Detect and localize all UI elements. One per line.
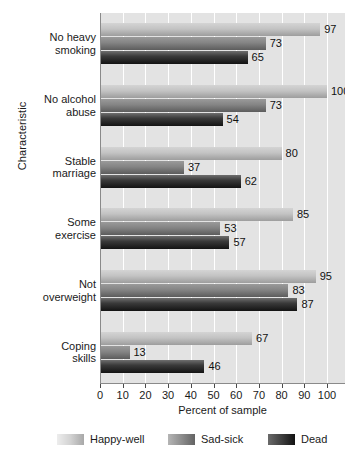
gridline-40 bbox=[191, 13, 192, 383]
x-tick-label-40: 40 bbox=[185, 389, 197, 401]
bar-value-label: 97 bbox=[324, 23, 336, 36]
category-axis: No heavysmokingNo alcoholabuseStablemarr… bbox=[8, 13, 96, 383]
bar bbox=[100, 85, 327, 98]
legend-label: Happy-well bbox=[90, 433, 144, 445]
bar bbox=[100, 270, 316, 283]
x-tick-mark-70 bbox=[259, 384, 260, 388]
gridline-60 bbox=[236, 13, 237, 383]
bar bbox=[100, 23, 320, 36]
x-tick-mark-10 bbox=[123, 384, 124, 388]
legend-label: Dead bbox=[301, 433, 327, 445]
x-tick-label-100: 100 bbox=[318, 389, 336, 401]
x-tick-label-60: 60 bbox=[230, 389, 242, 401]
x-tick-label-10: 10 bbox=[117, 389, 129, 401]
category-label-line: smoking bbox=[8, 44, 96, 57]
x-tick-label-0: 0 bbox=[97, 389, 103, 401]
bar bbox=[100, 147, 282, 160]
x-tick-label-80: 80 bbox=[275, 389, 287, 401]
x-axis-title: Percent of sample bbox=[100, 404, 345, 416]
bar bbox=[100, 161, 184, 174]
bar bbox=[100, 298, 297, 311]
bar bbox=[100, 360, 204, 373]
bar bbox=[100, 284, 288, 297]
x-tick-label-20: 20 bbox=[139, 389, 151, 401]
x-tick-label-90: 90 bbox=[298, 389, 310, 401]
category-label-line: Not bbox=[8, 278, 96, 291]
x-tick-mark-60 bbox=[236, 384, 237, 388]
x-tick-mark-80 bbox=[282, 384, 283, 388]
bar-value-label: 67 bbox=[256, 332, 268, 345]
bar-value-label: 73 bbox=[270, 37, 282, 50]
legend-item-sad-sick[interactable]: Sad-sick bbox=[168, 432, 243, 446]
legend-swatch-icon bbox=[168, 434, 195, 445]
gridline-70 bbox=[259, 13, 260, 383]
chart-legend: Happy-wellSad-sickDead bbox=[0, 432, 355, 452]
category-label: Stablemarriage bbox=[8, 155, 96, 180]
category-label: No heavysmoking bbox=[8, 31, 96, 56]
bar bbox=[100, 175, 241, 188]
category-label: No alcoholabuse bbox=[8, 93, 96, 118]
category-label-line: Stable bbox=[8, 155, 96, 168]
bar bbox=[100, 37, 266, 50]
bar-value-label: 53 bbox=[224, 222, 236, 235]
gridline-10 bbox=[123, 13, 124, 383]
category-label-line: abuse bbox=[8, 106, 96, 119]
category-label: Notoverweight bbox=[8, 278, 96, 303]
x-tick-mark-100 bbox=[327, 384, 328, 388]
gridline-100 bbox=[327, 13, 328, 383]
bar-value-label: 46 bbox=[208, 360, 220, 373]
gridline-80 bbox=[282, 13, 283, 383]
bar-value-label: 37 bbox=[188, 161, 200, 174]
x-tick-label-70: 70 bbox=[253, 389, 265, 401]
x-tick-label-50: 50 bbox=[207, 389, 219, 401]
bar-value-label: 13 bbox=[134, 346, 146, 359]
bar bbox=[100, 99, 266, 112]
bar-value-label: 65 bbox=[252, 51, 264, 64]
gridline-50 bbox=[214, 13, 215, 383]
bar bbox=[100, 222, 220, 235]
bar-value-label: 80 bbox=[286, 147, 298, 160]
x-tick-mark-20 bbox=[145, 384, 146, 388]
category-label-line: overweight bbox=[8, 291, 96, 304]
legend-swatch-icon bbox=[57, 434, 84, 445]
x-tick-mark-0 bbox=[100, 384, 101, 388]
bar bbox=[100, 332, 252, 345]
bar-value-label: 100 bbox=[331, 85, 345, 98]
category-label-line: No heavy bbox=[8, 31, 96, 44]
category-label-line: Coping bbox=[8, 340, 96, 353]
gridline-20 bbox=[145, 13, 146, 383]
bar-value-label: 62 bbox=[245, 175, 257, 188]
bar bbox=[100, 208, 293, 221]
bar-value-label: 85 bbox=[297, 208, 309, 221]
bar-value-label: 95 bbox=[320, 270, 332, 283]
gridline-90 bbox=[304, 13, 305, 383]
x-axis-ticks: 0102030405060708090100 bbox=[100, 384, 345, 394]
category-label-line: marriage bbox=[8, 167, 96, 180]
legend-label: Sad-sick bbox=[201, 433, 243, 445]
x-tick-mark-30 bbox=[168, 384, 169, 388]
category-label-line: No alcohol bbox=[8, 93, 96, 106]
legend-item-happy-well[interactable]: Happy-well bbox=[57, 432, 144, 446]
bar bbox=[100, 236, 229, 249]
category-label-line: exercise bbox=[8, 229, 96, 242]
x-tick-mark-40 bbox=[191, 384, 192, 388]
y-axis-line bbox=[100, 13, 101, 384]
bar bbox=[100, 346, 130, 359]
category-label-line: skills bbox=[8, 352, 96, 365]
bar-value-label: 73 bbox=[270, 99, 282, 112]
bar bbox=[100, 51, 248, 64]
gridline-30 bbox=[168, 13, 169, 383]
legend-item-dead[interactable]: Dead bbox=[268, 432, 327, 446]
category-label-line: Some bbox=[8, 216, 96, 229]
bar-value-label: 87 bbox=[301, 298, 313, 311]
x-tick-mark-90 bbox=[304, 384, 305, 388]
category-label: Copingskills bbox=[8, 340, 96, 365]
bar-value-label: 83 bbox=[292, 284, 304, 297]
plot-area: 9773651007354803762855357958387671346 bbox=[100, 13, 345, 383]
bar-value-label: 57 bbox=[233, 236, 245, 249]
bar-value-label: 54 bbox=[227, 113, 239, 126]
legend-swatch-icon bbox=[268, 434, 295, 445]
x-tick-label-30: 30 bbox=[162, 389, 174, 401]
x-tick-mark-50 bbox=[214, 384, 215, 388]
bar-chart: Characteristic No heavysmokingNo alcohol… bbox=[0, 0, 355, 458]
